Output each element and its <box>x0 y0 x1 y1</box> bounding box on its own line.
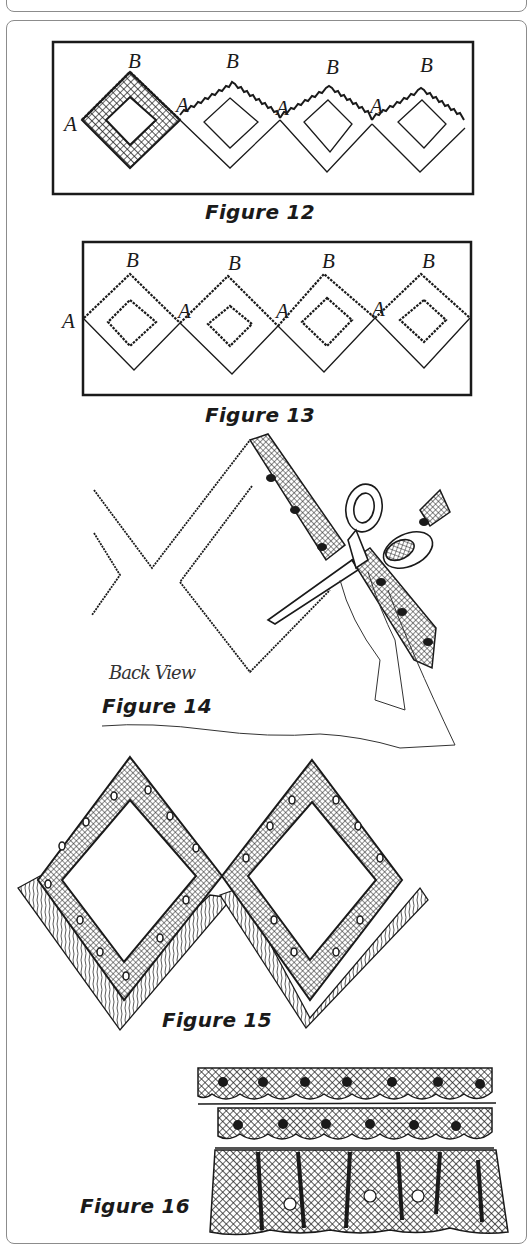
figure-16-drawing <box>198 1068 508 1235</box>
figure-12-drawing: B B B B A A A A <box>53 42 473 194</box>
label-b: B <box>422 249 435 273</box>
illustrations: B B B B A A A A B B B B <box>0 0 531 1248</box>
label-b: B <box>226 49 239 73</box>
figure-14-caption: Figure 14 <box>102 694 212 718</box>
label-b: B <box>420 53 433 77</box>
label-a: A <box>274 299 289 323</box>
label-b: B <box>128 49 141 73</box>
label-a: A <box>174 93 189 117</box>
label-a: A <box>368 94 383 118</box>
figure-16-caption: Figure 16 <box>80 1194 190 1218</box>
figure-12-caption: Figure 12 <box>205 200 315 224</box>
figure-15-drawing <box>18 757 428 1030</box>
figure-13-drawing: B B B B A A A A <box>60 242 471 395</box>
label-a: A <box>176 299 191 323</box>
label-b: B <box>126 248 139 272</box>
label-a: A <box>60 309 75 333</box>
figure-15-caption: Figure 15 <box>162 1008 272 1032</box>
label-a: A <box>62 112 77 136</box>
label-b: B <box>228 251 241 275</box>
label-b: B <box>326 55 339 79</box>
back-view-label: Back View <box>108 662 197 683</box>
figure-13-caption: Figure 13 <box>205 403 315 427</box>
label-b: B <box>322 249 335 273</box>
label-a: A <box>370 297 385 321</box>
label-a: A <box>274 96 289 120</box>
